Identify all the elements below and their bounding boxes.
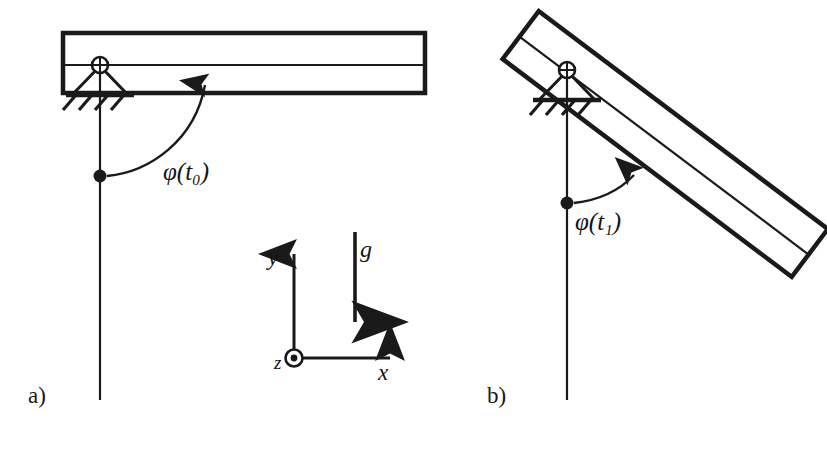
x-axis-label: x	[378, 360, 388, 386]
z-axis-label: z	[274, 352, 281, 374]
panel-b-group	[503, 11, 827, 400]
beam-b	[503, 11, 827, 277]
panel-label-b-text: b)	[487, 383, 506, 408]
gravity-label-text: g	[360, 236, 372, 262]
angle-label-b: φ(t₁)	[575, 208, 621, 236]
angle-origin-dot-a	[94, 170, 107, 183]
angle-label-b-text: φ(t₁)	[575, 208, 621, 235]
panel-label-a: a)	[28, 383, 46, 409]
panel-label-a-text: a)	[28, 383, 46, 408]
panel-a-group	[63, 33, 425, 400]
z-axis-label-text: z	[274, 352, 281, 373]
angle-arc-b	[574, 175, 634, 203]
panel-label-b: b)	[487, 383, 506, 409]
annotations-group	[286, 232, 391, 367]
angle-label-a: φ(t₀)	[163, 158, 209, 186]
z-axis-dot-icon	[291, 355, 298, 362]
y-axis-label: y	[268, 245, 278, 271]
figure-canvas: φ(t₀) φ(t₁) g y x z a) b)	[0, 0, 827, 451]
x-axis-label-text: x	[378, 360, 388, 385]
angle-origin-dot-b	[561, 197, 574, 210]
y-axis-label-text: y	[268, 245, 278, 270]
angle-label-a-text: φ(t₀)	[163, 158, 209, 185]
diagram-svg	[0, 0, 827, 451]
gravity-label: g	[360, 236, 372, 263]
